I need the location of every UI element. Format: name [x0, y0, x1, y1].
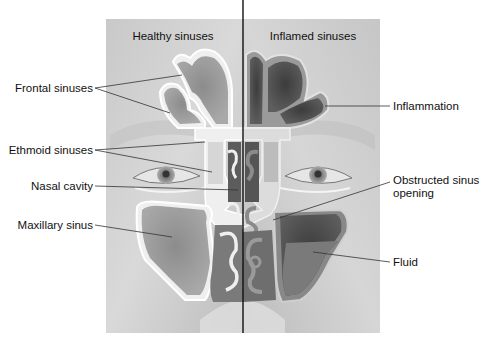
label-obstructed-sinus-opening-line2: opening	[393, 187, 434, 200]
label-inflammation: Inflammation	[393, 100, 459, 113]
label-nasal-cavity: Nasal cavity	[31, 180, 93, 193]
label-ethmoid-sinuses: Ethmoid sinuses	[9, 144, 93, 157]
illustration	[0, 0, 485, 341]
label-maxillary-sinus: Maxillary sinus	[18, 219, 93, 232]
panel-title-healthy: Healthy sinuses	[132, 30, 213, 42]
label-obstructed-sinus-opening-line1: Obstructed sinus	[393, 174, 479, 187]
label-frontal-sinuses: Frontal sinuses	[15, 82, 93, 95]
sinus-diagram: Healthy sinuses Inflamed sinuses Frontal…	[0, 0, 485, 341]
panel-title-inflamed: Inflamed sinuses	[270, 30, 356, 42]
label-fluid: Fluid	[393, 256, 418, 269]
